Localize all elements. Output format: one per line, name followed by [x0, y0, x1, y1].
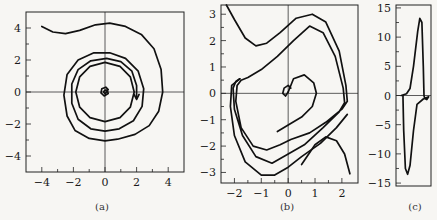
- y-tick-label: −2: [200, 140, 216, 153]
- panel-a: −4−2024−4−2024(a): [5, 12, 184, 212]
- y-tick-label: −10: [368, 148, 391, 161]
- y-tick-label: 5: [384, 60, 391, 73]
- curve-lower-right: [302, 137, 350, 174]
- y-tick-label: −5: [375, 119, 391, 132]
- figure: −4−2024−4−2024(a) −3−2−10123−2−1012(b) −…: [0, 0, 437, 220]
- y-tick-label: 0: [384, 90, 391, 103]
- panel-c: −15−10−5051015(c): [368, 2, 431, 212]
- x-tick-label: −1: [253, 187, 269, 200]
- curve-cycle: [401, 18, 428, 174]
- x-tick-label: 2: [338, 187, 345, 200]
- x-tick-label: 2: [133, 176, 140, 189]
- panel-b: −3−2−10123−2−1012(b): [200, 5, 358, 212]
- x-tick-label: 0: [102, 176, 109, 189]
- x-tick-label: −4: [34, 176, 50, 189]
- y-tick-label: 0: [209, 87, 216, 100]
- panel-caption: (b): [280, 201, 294, 212]
- y-tick-label: −1: [200, 114, 216, 127]
- y-tick-label: 15: [377, 2, 391, 15]
- y-tick-label: 3: [209, 8, 216, 21]
- x-tick-label: 0: [285, 187, 292, 200]
- curve-trajectory: [42, 23, 163, 141]
- panel-caption: (a): [95, 201, 109, 212]
- curve-outer-top: [226, 5, 347, 163]
- y-tick-label: 2: [209, 35, 216, 48]
- curve-inner-spiral: [277, 75, 316, 132]
- y-tick-label: 1: [209, 61, 216, 74]
- y-tick-label: −4: [5, 150, 21, 163]
- y-tick-label: 10: [377, 31, 391, 44]
- x-tick-label: 4: [165, 176, 172, 189]
- y-tick-label: −3: [200, 166, 216, 179]
- panel-caption: (c): [408, 201, 422, 212]
- y-tick-label: 4: [14, 22, 21, 35]
- y-tick-label: 2: [14, 54, 21, 67]
- y-tick-label: −15: [368, 177, 391, 190]
- x-tick-label: −2: [65, 176, 81, 189]
- x-tick-label: 1: [312, 187, 319, 200]
- y-tick-label: −2: [5, 118, 21, 131]
- x-tick-label: −2: [226, 187, 242, 200]
- y-tick-label: 0: [14, 86, 21, 99]
